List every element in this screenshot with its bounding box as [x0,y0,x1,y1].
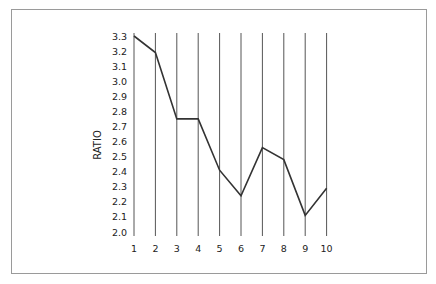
y-tick-label: 2.1 [112,211,127,222]
y-axis-ticks: 2.02.12.22.32.42.52.62.72.82.93.03.13.23… [112,31,127,238]
x-axis-ticks: 12345678910 [131,243,333,254]
x-tick-label: 2 [152,243,158,254]
y-tick-label: 2.7 [112,121,127,132]
x-tick-label: 9 [302,243,308,254]
y-tick-label: 3.3 [112,31,127,42]
x-tick-label: 7 [259,243,265,254]
y-tick-label: 2.5 [112,151,127,162]
y-tick-label: 2.3 [112,181,127,192]
x-tick-label: 8 [281,243,287,254]
y-tick-label: 2.9 [112,91,127,102]
y-tick-label: 2.0 [112,227,127,238]
y-tick-label: 3.0 [112,76,127,87]
x-tick-label: 1 [131,243,137,254]
y-tick-label: 3.2 [112,46,127,57]
ratio-line [134,36,327,215]
y-tick-label: 2.6 [112,136,127,147]
x-tick-label: 5 [217,243,223,254]
x-tick-label: 10 [321,243,333,254]
y-tick-label: 2.2 [112,196,127,207]
y-axis-label: RATIO [92,130,103,160]
y-tick-label: 2.8 [112,106,127,117]
x-tick-label: 3 [174,243,180,254]
vertical-gridlines [134,33,327,236]
line-chart: 2.02.12.22.32.42.52.62.72.82.93.03.13.23… [0,0,436,284]
y-tick-label: 2.4 [112,166,127,177]
x-tick-label: 6 [238,243,244,254]
y-tick-label: 3.1 [112,61,127,72]
x-tick-label: 4 [195,243,201,254]
